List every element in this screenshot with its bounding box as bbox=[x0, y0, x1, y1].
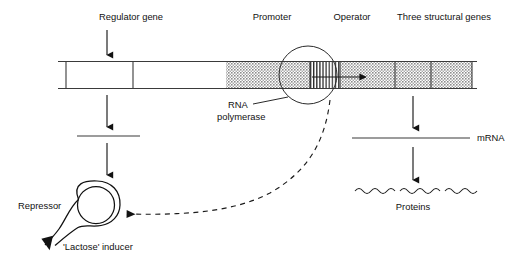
protein-squiggle-1 bbox=[355, 189, 395, 194]
label-rna-polymerase-line2: polymerase bbox=[217, 111, 265, 122]
segment-promoter bbox=[226, 62, 310, 88]
label-operator: Operator bbox=[334, 11, 371, 22]
label-mrna: mRNA bbox=[477, 132, 505, 143]
lac-operon-diagram: Regulator gene Promoter Operator Three s… bbox=[0, 0, 531, 264]
leader-line-rna-polymerase bbox=[253, 97, 288, 104]
repressor-inner-loop bbox=[78, 187, 115, 224]
label-repressor: Repressor bbox=[18, 200, 61, 211]
protein-squiggle-3 bbox=[445, 189, 477, 194]
dna-bar bbox=[58, 62, 477, 89]
proteins-squiggles bbox=[355, 189, 477, 194]
label-lactose-inducer: 'Lactose' inducer bbox=[63, 241, 133, 252]
label-structural-genes: Three structural genes bbox=[397, 11, 491, 22]
repressor-outer-contour bbox=[55, 181, 120, 246]
repressor-molecule bbox=[45, 181, 120, 246]
protein-squiggle-2 bbox=[400, 189, 440, 194]
label-proteins: Proteins bbox=[396, 201, 431, 212]
label-rna-polymerase-line1: RNA bbox=[228, 99, 249, 110]
label-regulator-gene: Regulator gene bbox=[99, 11, 163, 22]
label-promoter: Promoter bbox=[253, 11, 292, 22]
segment-structural-genes bbox=[340, 62, 472, 88]
